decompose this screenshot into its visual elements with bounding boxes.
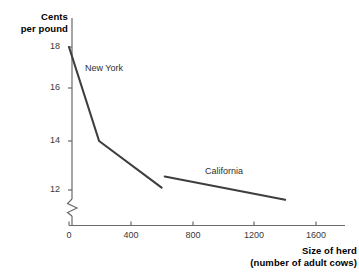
y-tick-label-18: 18 — [36, 41, 60, 51]
x-axis-title-line1: Size of herd — [302, 245, 357, 256]
y-axis-break-icon — [68, 199, 78, 216]
x-tick-label-800: 800 — [176, 230, 210, 240]
x-tick-label-0: 0 — [52, 230, 86, 240]
x-tick-label-400: 400 — [114, 230, 148, 240]
y-axis-title: Centsper pound — [0, 11, 68, 34]
x-axis-title: Size of herd(number of adult cows) — [211, 245, 357, 268]
series-line-california — [165, 177, 285, 200]
x-tick-label-1200: 1200 — [237, 230, 271, 240]
series-annotation-california: California — [205, 166, 243, 176]
y-tick-label-12: 12 — [36, 184, 60, 194]
x-tick-label-1600: 1600 — [299, 230, 333, 240]
y-axis-title-line2: per pound — [21, 23, 68, 34]
series-annotation-new-york: New York — [85, 63, 123, 73]
y-tick-label-14: 14 — [36, 135, 60, 145]
chart-figure: Centsper pound Size of herd(number of ad… — [0, 0, 359, 279]
x-axis-title-line2: (number of adult cows) — [250, 257, 357, 268]
y-axis-title-line1: Cents — [41, 11, 68, 22]
y-tick-label-16: 16 — [36, 82, 60, 92]
